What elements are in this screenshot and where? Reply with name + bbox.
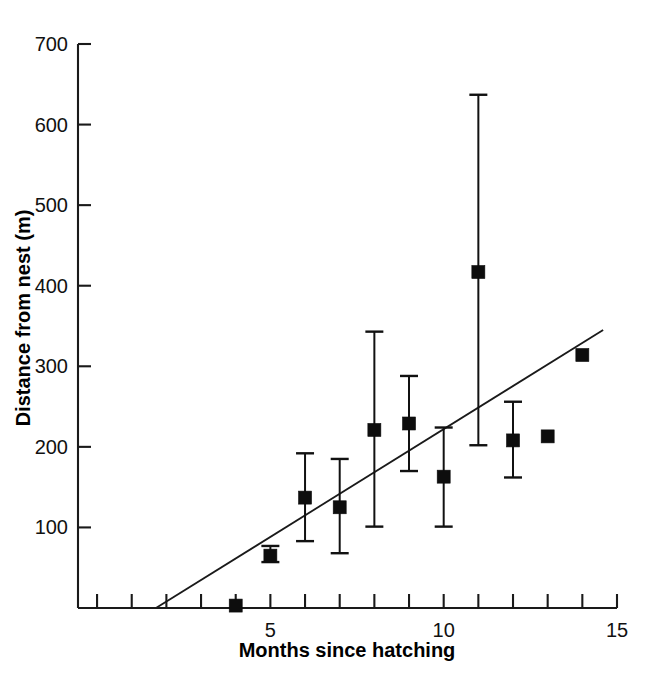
y-tick-label-700: 700 (35, 33, 68, 55)
y-tick-label-300: 300 (35, 355, 68, 377)
data-marker (229, 599, 242, 612)
y-axis-title: Distance from nest (m) (12, 210, 34, 427)
data-point-month-11 (469, 95, 487, 445)
data-marker (541, 430, 554, 443)
chart-figure: 100200300400500600700 51015 Months since… (0, 0, 653, 688)
x-axis-title: Months since hatching (239, 639, 456, 661)
data-point-month-7 (331, 459, 349, 553)
data-points-group (229, 95, 589, 612)
data-point-month-8 (365, 332, 383, 527)
x-tick-label-10: 10 (433, 619, 455, 641)
data-marker (299, 491, 312, 504)
data-point-month-13 (541, 430, 554, 443)
data-point-month-4 (229, 599, 242, 612)
data-point-month-10 (435, 428, 453, 527)
y-tick-label-600: 600 (35, 114, 68, 136)
data-marker (368, 423, 381, 436)
axes-group (78, 44, 617, 608)
y-tick-label-400: 400 (35, 275, 68, 297)
trend-line-group (156, 330, 603, 608)
data-point-month-12 (504, 402, 522, 478)
x-tick-label-5: 5 (265, 619, 276, 641)
data-point-month-14 (576, 349, 589, 362)
data-point-month-9 (400, 376, 418, 471)
y-tick-label-200: 200 (35, 436, 68, 458)
data-point-month-6 (296, 453, 314, 541)
scatter-plot-svg: 100200300400500600700 51015 Months since… (0, 0, 653, 688)
data-marker (472, 266, 485, 279)
data-marker (333, 501, 346, 514)
data-marker (264, 549, 277, 562)
x-axis-ticks: 51015 (97, 594, 628, 641)
x-tick-label-15: 15 (606, 619, 628, 641)
y-tick-label-500: 500 (35, 194, 68, 216)
data-marker (507, 434, 520, 447)
y-axis-ticks: 100200300400500600700 (35, 33, 91, 538)
data-point-month-5 (261, 546, 279, 562)
data-marker (576, 349, 589, 362)
data-marker (437, 470, 450, 483)
y-tick-label-100: 100 (35, 516, 68, 538)
regression-line (156, 330, 603, 608)
data-marker (403, 417, 416, 430)
